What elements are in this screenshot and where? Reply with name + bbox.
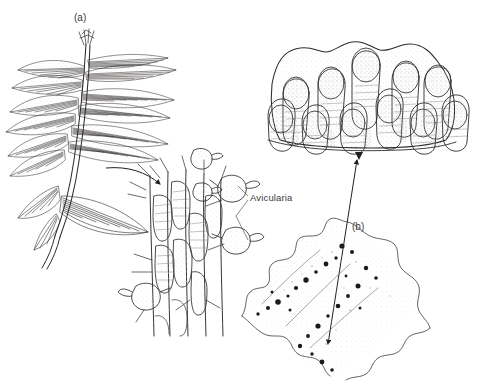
zooid-detail bbox=[118, 148, 264, 336]
colony-apex bbox=[79, 29, 94, 45]
avicularia-label: Avicularia bbox=[250, 192, 293, 203]
figure-illustration bbox=[0, 0, 480, 389]
panel-a-colony bbox=[6, 29, 176, 269]
panel-b-colony bbox=[242, 218, 430, 380]
panel-b-label: (b) bbox=[352, 221, 364, 232]
figure-caption bbox=[10, 377, 440, 389]
surface-detail bbox=[268, 42, 469, 155]
surface-detail-arrowhead bbox=[355, 152, 363, 160]
panel-a-label: (a) bbox=[74, 12, 86, 23]
arrow-colony-to-zooid bbox=[106, 168, 160, 184]
